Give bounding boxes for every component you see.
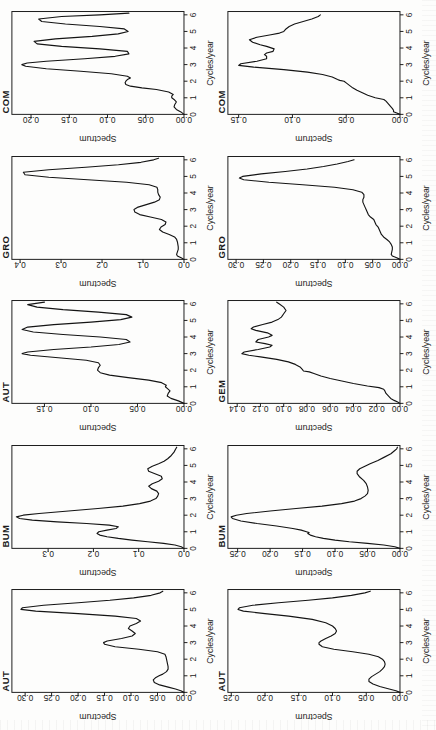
plot-frame [228, 301, 400, 404]
y-tick-label: 0.10 [284, 116, 301, 126]
y-tick-label: 0.30 [17, 693, 34, 703]
y-tick-label: 0.0 [178, 260, 190, 270]
x-tick-label: 4 [404, 46, 414, 51]
y-tick-label: 0.10 [275, 405, 292, 415]
panel-grid: 01234560.000.050.100.150.200.250.30Cycle… [0, 0, 436, 730]
y-tick-label: 0.08 [298, 405, 315, 415]
chart-panel-gro-1: 01234560.00.10.20.30.4Cycles/yearSpectru… [2, 148, 218, 292]
y-tick-label: 0.25 [43, 693, 60, 703]
y-tick-label: 0.14 [228, 405, 245, 415]
y-tick-label: 0.15 [36, 405, 53, 415]
x-tick-label: 2 [188, 79, 198, 84]
y-tick-label: 0.0 [178, 549, 190, 559]
x-axis-title: Cycles/year [420, 474, 430, 519]
y-tick-label: 0.10 [83, 405, 100, 415]
x-tick-label: 3 [404, 351, 414, 356]
x-tick-label: 3 [404, 640, 414, 645]
y-tick-label: 0.20 [70, 693, 87, 703]
x-tick-label: 4 [188, 335, 198, 340]
y-axis-title: Spectrum [295, 712, 332, 722]
y-tick-label: 0.05 [364, 260, 381, 270]
x-tick-label: 1 [404, 384, 414, 389]
y-tick-label: 0.10 [337, 260, 354, 270]
x-tick-label: 3 [404, 496, 414, 501]
x-tick-label: 2 [188, 368, 198, 373]
y-tick-label: 0.05 [149, 693, 166, 703]
plot-frame [12, 12, 184, 115]
chart-panel-gem-7: 01234560.000.020.040.060.080.100.120.14C… [218, 293, 434, 437]
x-tick-label: 3 [188, 62, 198, 67]
y-tick-label: 0.00 [176, 116, 193, 126]
x-tick-label: 6 [404, 301, 414, 306]
y-tick-label: 0.02 [368, 405, 385, 415]
y-axis-title: Spectrum [295, 135, 332, 145]
x-tick-label: 5 [188, 29, 198, 34]
chart-panel-bum-3: 01234560.00.10.20.3Cycles/yearSpectrumBU… [2, 437, 218, 581]
x-tick-label: 6 [188, 13, 198, 18]
spectrum-curve [241, 302, 399, 403]
x-tick-label: 5 [404, 607, 414, 612]
x-tick-label: 6 [188, 590, 198, 595]
plot-frame [228, 12, 400, 115]
y-tick-label: 0.1 [133, 549, 145, 559]
plot-frame [12, 301, 184, 404]
y-axis-title: Spectrum [295, 568, 332, 578]
y-tick-label: 0.10 [324, 693, 341, 703]
y-tick-label: 0.00 [391, 549, 408, 559]
x-tick-label: 3 [188, 640, 198, 645]
y-tick-label: 0.3 [42, 549, 54, 559]
y-tick-label: 0.00 [391, 260, 408, 270]
x-axis-title: Cycles/year [205, 41, 215, 86]
plot-frame [227, 156, 399, 259]
panel-title: AUT [2, 671, 11, 691]
spectrum-curve [23, 158, 184, 259]
x-axis-title: Cycles/year [205, 185, 215, 230]
x-tick-label: 4 [404, 335, 414, 340]
x-tick-label: 5 [188, 462, 198, 467]
x-tick-label: 3 [188, 207, 198, 212]
x-tick-label: 4 [404, 623, 414, 628]
spectrum-curve [238, 15, 399, 115]
chart-panel-aut-2: 01234560.000.050.100.15Cycles/yearSpectr… [2, 293, 218, 437]
x-tick-label: 5 [188, 318, 198, 323]
x-axis-title: Cycles/year [420, 185, 430, 230]
y-tick-label: 0.25 [222, 693, 239, 703]
y-tick-label: 0.06 [321, 405, 338, 415]
x-tick-label: 5 [188, 607, 198, 612]
y-axis-title: Spectrum [79, 279, 116, 289]
x-axis-title: Cycles/year [205, 474, 215, 519]
spectrum-curve [22, 14, 184, 115]
x-tick-label: 1 [188, 96, 198, 101]
y-tick-label: 0.05 [337, 116, 354, 126]
x-tick-label: 1 [404, 673, 414, 678]
x-tick-label: 4 [188, 46, 198, 51]
y-tick-label: 0.04 [345, 405, 362, 415]
x-tick-label: 6 [404, 446, 414, 451]
y-tick-label: 0.15 [230, 116, 247, 126]
plot-frame [12, 156, 184, 259]
y-tick-label: 0.10 [326, 549, 343, 559]
y-axis-title: Spectrum [79, 135, 116, 145]
y-tick-label: 0.15 [290, 693, 307, 703]
x-tick-label: 5 [404, 462, 414, 467]
x-tick-label: 2 [188, 512, 198, 517]
x-tick-label: 5 [404, 318, 414, 323]
y-tick-label: 0.20 [282, 260, 299, 270]
x-axis-title: Cycles/year [420, 41, 430, 86]
y-tick-label: 0.25 [255, 260, 272, 270]
chart-panel-aut-4: 01234560.000.050.100.150.200.250.30Cycle… [2, 582, 218, 726]
y-axis-title: Spectrum [79, 712, 116, 722]
y-tick-label: 0.00 [176, 405, 193, 415]
y-tick-label: 0.4 [14, 260, 26, 270]
x-tick-label: 2 [404, 223, 414, 228]
panel-title: BUM [2, 524, 11, 547]
x-tick-label: 1 [404, 529, 414, 534]
x-tick-label: 1 [404, 240, 414, 245]
x-tick-label: 6 [188, 446, 198, 451]
y-tick-label: 0.25 [229, 549, 246, 559]
y-tick-label: 0.15 [309, 260, 326, 270]
figure-page: 01234560.000.050.100.150.200.250.30Cycle… [0, 0, 436, 730]
y-tick-label: 0.1 [137, 260, 149, 270]
spectrum-curve [231, 447, 400, 548]
spectrum-curve [239, 160, 400, 260]
